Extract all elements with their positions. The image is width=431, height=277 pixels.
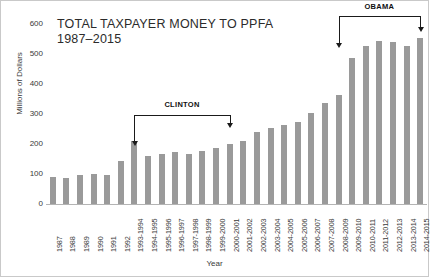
bar	[91, 174, 97, 204]
y-tick-label: 500	[15, 49, 43, 58]
x-axis-title: Year	[1, 259, 428, 268]
annotation-bracket	[134, 115, 229, 116]
bar	[376, 41, 382, 204]
bar	[349, 58, 355, 204]
x-tick-label: 2004-2005	[286, 219, 295, 252]
x-tick-label: 2003-2004	[273, 219, 282, 252]
x-tick-label: 1987	[55, 236, 64, 252]
x-tick-label: 1995-1996	[164, 219, 173, 252]
x-tick-label: 2012-2013	[395, 219, 404, 252]
x-tick-label: 1989	[82, 236, 91, 252]
y-tick-label: 200	[15, 139, 43, 148]
x-tick-label: 1991	[109, 236, 118, 252]
bar	[104, 175, 110, 204]
x-tick-label: 2013-2014	[409, 219, 418, 252]
x-tick-label: 2009-2010	[354, 219, 363, 252]
x-tick-label: 1990	[96, 236, 105, 252]
bar	[404, 46, 410, 204]
x-tick-label: 2007-2008	[327, 219, 336, 252]
x-tick-label: 1993-1994	[136, 219, 145, 252]
bar	[281, 125, 287, 205]
annotation-arrow-stem	[339, 16, 340, 44]
bar	[63, 178, 69, 204]
bar	[268, 128, 274, 204]
annotation-arrow-stem	[134, 115, 135, 142]
bar	[172, 152, 178, 205]
bar	[295, 122, 301, 204]
y-tick-label: 0	[15, 199, 43, 208]
x-tick-label: 1988	[68, 236, 77, 252]
x-tick-label: 1997-1998	[191, 219, 200, 252]
x-tick-label: 1999-2000	[218, 219, 227, 252]
bar	[145, 156, 151, 204]
bar	[390, 42, 396, 204]
annotation-arrow-head	[418, 27, 424, 32]
x-tick-label: 1994-1995	[150, 219, 159, 252]
x-tick-label: 1992	[123, 236, 132, 252]
plot-area	[46, 24, 427, 204]
bar	[186, 154, 192, 204]
y-tick-label: 100	[15, 169, 43, 178]
bar	[50, 177, 56, 204]
bar	[227, 144, 233, 204]
x-axis-line	[46, 204, 427, 205]
bar	[77, 175, 83, 204]
annotation-arrow-head	[336, 43, 342, 48]
x-tick-label: 2011-2012	[381, 219, 390, 252]
bar	[240, 141, 246, 204]
x-tick-label: 1998-1999	[204, 219, 213, 252]
y-tick-label: 400	[15, 79, 43, 88]
x-tick-label: 2001-2002	[245, 219, 254, 252]
annotation-arrow-head	[132, 141, 138, 146]
bar	[159, 154, 165, 204]
bar	[213, 148, 219, 204]
bar	[118, 161, 124, 205]
bar	[254, 132, 260, 204]
bar	[363, 46, 369, 204]
annotation-label: OBAMA	[357, 2, 401, 11]
bar	[308, 113, 314, 205]
bar	[336, 95, 342, 204]
x-tick-label: 2014-2015	[422, 219, 431, 252]
x-tick-label: 2000-2001	[232, 219, 241, 252]
x-tick-label: 2010-2011	[368, 219, 377, 252]
bar	[199, 151, 205, 204]
x-tick-label: 2008-2009	[341, 219, 350, 252]
x-axis-ticks: 1987198819891990199119921993-19941994-19…	[46, 206, 427, 256]
annotation-bracket	[339, 16, 421, 17]
x-tick-label: 2006-2007	[313, 219, 322, 252]
y-tick-label: 600	[15, 19, 43, 28]
bar	[131, 141, 137, 204]
y-tick-label: 300	[15, 109, 43, 118]
bar	[322, 103, 328, 204]
annotation-arrow-head	[227, 123, 233, 128]
x-tick-label: 1996-1997	[177, 219, 186, 252]
bar	[417, 38, 423, 204]
x-tick-label: 2002-2003	[259, 219, 268, 252]
annotation-label: CLINTON	[160, 100, 204, 109]
x-tick-label: 2005-2006	[300, 219, 309, 252]
